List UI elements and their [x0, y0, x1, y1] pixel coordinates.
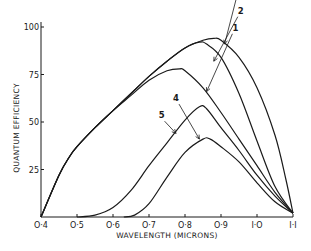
x-tick-label: O·5	[70, 221, 84, 230]
curve-2	[41, 42, 293, 217]
quantum-efficiency-chart: O·4O·5O·6O·7O·8O·9I·OI·I255075100 12345 …	[0, 0, 311, 251]
curves	[41, 38, 293, 217]
y-tick-label: 25	[29, 166, 39, 175]
y-tick-label: 50	[29, 118, 39, 127]
x-tick-label: O·7	[142, 221, 156, 230]
curve-arrow-5	[165, 121, 176, 133]
axes: O·4O·5O·6O·7O·8O·9I·OI·I255075100	[24, 22, 297, 230]
y-tick-label: 100	[24, 23, 39, 32]
x-tick-label: O·4	[34, 221, 48, 230]
curve-label-5: 5	[159, 110, 165, 120]
curve-4	[77, 106, 293, 217]
x-tick-label: I·O	[251, 221, 262, 230]
x-tick-label: I·I	[289, 221, 296, 230]
curve-arrow-1	[207, 34, 233, 92]
x-axis-title: WAVELENGTH (MICRONS)	[116, 231, 217, 240]
curve-3	[41, 38, 293, 217]
curve-label-2: 2	[238, 6, 244, 16]
x-tick-label: O·8	[178, 221, 192, 230]
y-axis-title: QUANTUM EFFICIENCY	[12, 83, 21, 173]
curve-label-4: 4	[173, 93, 179, 103]
curve-5	[124, 138, 293, 217]
x-tick-label: O·6	[106, 221, 120, 230]
x-tick-label: O·9	[214, 221, 228, 230]
y-tick-label: 75	[29, 71, 39, 80]
